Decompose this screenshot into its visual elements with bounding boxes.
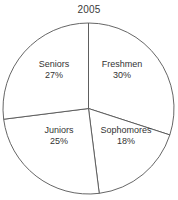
pie-label-name: Sophomores	[100, 125, 151, 136]
pie-label-seniors: Seniors 27%	[39, 59, 70, 81]
pie-label-value: 30%	[102, 70, 143, 81]
pie-label-name: Seniors	[39, 59, 70, 70]
pie-chart-figure: 2005 Freshmen 30% Sophomores 18% Juniors…	[0, 0, 178, 200]
pie-label-freshmen: Freshmen 30%	[102, 59, 143, 81]
pie-label-value: 27%	[39, 70, 70, 81]
pie-label-value: 18%	[100, 136, 151, 147]
pie-label-name: Freshmen	[102, 59, 143, 70]
pie-label-juniors: Juniors 25%	[44, 125, 73, 147]
pie-chart-canvas	[0, 0, 178, 200]
pie-label-sophomores: Sophomores 18%	[100, 125, 151, 147]
pie-label-value: 25%	[44, 136, 73, 147]
pie-slice-group	[3, 23, 174, 194]
pie-slice-juniors	[4, 109, 100, 195]
pie-label-name: Juniors	[44, 125, 73, 136]
